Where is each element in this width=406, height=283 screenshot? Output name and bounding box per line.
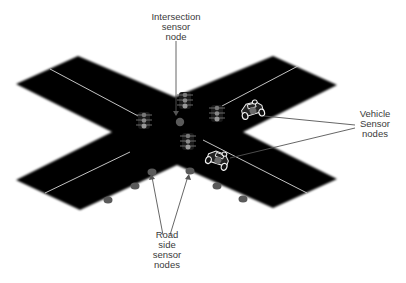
traffic-light-top xyxy=(177,92,193,109)
leader-vehicle-1 xyxy=(264,116,355,125)
traffic-light-left xyxy=(136,112,152,129)
traffic-light-right xyxy=(209,105,225,122)
intersection-sensor-node xyxy=(176,118,184,126)
label-vehicle-sensor-nodes: Vehicle Sensor nodes xyxy=(350,109,400,139)
leader-roadside-right xyxy=(170,176,188,235)
traffic-light-bottom xyxy=(180,133,196,150)
label-roadside-sensor-nodes: Road side sensor nodes xyxy=(142,230,192,270)
road-intersection xyxy=(16,56,337,210)
intersection-diagram xyxy=(0,0,406,283)
arrowhead-roadside-right xyxy=(185,174,191,180)
label-line: nodes xyxy=(350,129,400,139)
leader-roadside-left xyxy=(152,177,163,235)
label-line: nodes xyxy=(142,260,192,270)
road-surface xyxy=(16,56,337,210)
label-intersection-sensor-node: Intersection sensor node xyxy=(140,12,212,42)
label-line: node xyxy=(140,32,212,42)
